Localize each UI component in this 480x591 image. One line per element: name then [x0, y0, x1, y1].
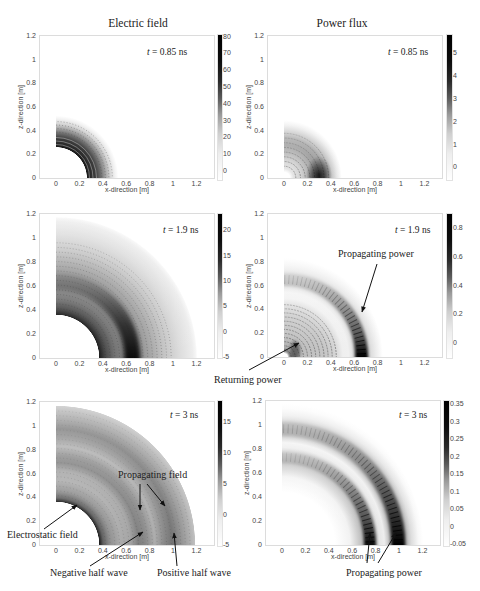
x-tick-label: 0.2 [75, 547, 85, 555]
y-tick-label: 0 [32, 541, 36, 549]
colorbar-tick-label: 0.2 [450, 453, 460, 461]
colorbar-tick-label: 10 [223, 277, 231, 285]
y-tick-label: 0.6 [254, 103, 264, 111]
colorbar-tick-label: 0.35 [450, 400, 464, 408]
colorbar-tick-label: 10 [223, 449, 231, 457]
y-tick-label: 0.8 [254, 79, 264, 87]
colorbar-tick-label: 0 [223, 167, 227, 175]
colorbar-tick-label: -5 [223, 541, 229, 549]
y-tick-label: 0 [32, 174, 36, 182]
y-tick-label: 0.4 [254, 305, 264, 313]
x-tick-label: 1.2 [420, 180, 430, 188]
colorbar-tick-label: 80 [223, 33, 231, 41]
colorbar: -0.0500.050.10.150.20.250.30.35 [444, 401, 449, 546]
y-tick-label: 1 [32, 56, 36, 64]
time-value: = 0.85 ns [152, 47, 187, 57]
y-tick-label: 0.8 [26, 258, 36, 266]
y-tick-label: 0.8 [26, 79, 36, 87]
colorbar: 012345 [447, 35, 452, 180]
y-tick-label: 0.2 [252, 517, 262, 525]
y-tick-label: 1.2 [26, 32, 36, 40]
x-tick-label: 0.2 [301, 547, 311, 555]
colorbar-tick-label: 1 [453, 141, 457, 149]
column-title-electric-field: Electric field [108, 16, 168, 30]
colorbar-tick-label: 0 [453, 163, 457, 171]
electric-field-map [40, 36, 214, 178]
x-tick-label: 0.8 [371, 547, 381, 555]
x-tick-label: 0 [280, 547, 284, 555]
colorbar-tick-label: 0.25 [450, 435, 464, 443]
colorbar-tick-label: -5 [223, 353, 229, 361]
y-tick-label: 1 [260, 234, 264, 242]
y-tick-label: 0 [260, 174, 264, 182]
colorbar: 01020304050607080 [218, 35, 222, 180]
power-flux-map [266, 401, 440, 545]
y-tick-label: 0.4 [252, 493, 262, 501]
time-label: t = 1.9 ns [395, 224, 430, 236]
time-symbol: t [147, 47, 150, 57]
x-tick-label: 0.2 [303, 359, 313, 367]
colorbar-tick-label: -0.05 [450, 540, 466, 548]
y-axis-label: z-direction [m] [243, 451, 251, 495]
x-tick-label: 0.4 [324, 547, 334, 555]
annotation-propagating-power-bottom: Propagating power [346, 567, 422, 579]
y-axis-label: z-direction [m] [17, 452, 25, 496]
colorbar: -505101520 [218, 214, 222, 358]
time-label: t = 3 ns [399, 409, 427, 421]
x-tick-label: 1 [399, 359, 403, 367]
x-tick-label: 1.2 [418, 547, 428, 555]
colorbar-tick-label: 5 [223, 480, 227, 488]
y-tick-label: 1 [32, 422, 36, 430]
colorbar-tick-label: 0 [453, 339, 457, 347]
flux-intensity [266, 401, 440, 545]
colorbar-tick-label: 60 [223, 66, 231, 74]
colorbar-tick-label: 0 [450, 523, 454, 531]
time-value: = 0.85 ns [393, 47, 428, 57]
y-tick-label: 0.2 [26, 150, 36, 158]
y-tick-label: 0.4 [254, 127, 264, 135]
colorbar-tick-label: 0.2 [453, 310, 463, 318]
y-tick-label: 0.2 [254, 329, 264, 337]
annotation-propagating-field: Propagating field [118, 469, 187, 481]
y-tick-label: 0.8 [26, 446, 36, 454]
annotation-returning-power: Returning power [214, 374, 282, 386]
column-title-power-flux: Power flux [317, 16, 368, 30]
y-tick-label: 0.2 [26, 517, 36, 525]
colorbar-tick-label: 70 [223, 49, 231, 57]
x-tick-label: 0.4 [98, 180, 108, 188]
x-tick-label: 1 [171, 360, 175, 368]
x-tick-label: 0.8 [145, 547, 155, 555]
x-tick-label: 0.4 [326, 180, 336, 188]
x-tick-label: 1.2 [420, 359, 430, 367]
time-value: = 1.9 ns [400, 225, 430, 235]
y-tick-label: 1.2 [26, 210, 36, 218]
y-tick-label: 0.8 [254, 258, 264, 266]
x-tick-label: 0 [54, 180, 58, 188]
time-value: = 3 ns [404, 410, 427, 420]
x-tick-label: 1.2 [192, 547, 202, 555]
colorbar-tick-label: 0 [223, 511, 227, 519]
x-tick-label: 0.6 [121, 180, 131, 188]
x-tick-label: 0.8 [145, 360, 155, 368]
time-symbol: t [163, 225, 166, 235]
time-label: t = 3 ns [170, 409, 198, 421]
y-tick-label: 0.8 [252, 445, 262, 453]
x-tick-label: 0 [282, 180, 286, 188]
x-tick-label: 0.2 [75, 180, 85, 188]
time-symbol: t [399, 410, 402, 420]
colorbar: 00.20.40.60.8 [447, 214, 452, 358]
time-symbol: t [388, 47, 391, 57]
colorbar-tick-label: 30 [223, 117, 231, 125]
colorbar-tick-label: 50 [223, 83, 231, 91]
colorbar-tick-label: 20 [223, 133, 231, 141]
y-tick-label: 0.6 [26, 103, 36, 111]
colorbar-tick-label: 2 [453, 118, 457, 126]
x-tick-label: 1 [171, 547, 175, 555]
time-value: = 3 ns [175, 410, 198, 420]
colorbar-tick-label: 0.6 [453, 253, 463, 261]
colorbar-tick-label: 0.4 [453, 282, 463, 290]
x-tick-label: 0 [54, 547, 58, 555]
y-axis-label: z-direction [m] [245, 264, 253, 308]
y-tick-label: 0 [258, 541, 262, 549]
time-symbol: t [170, 410, 173, 420]
